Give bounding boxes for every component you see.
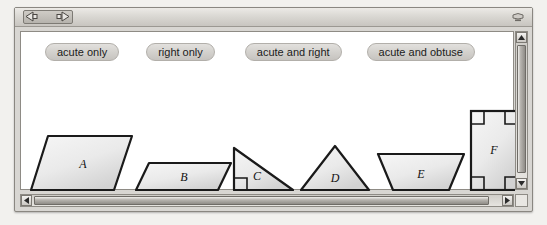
shape-B-label: B bbox=[180, 170, 188, 184]
navigation-arrows-group[interactable] bbox=[23, 10, 73, 24]
content-canvas: acute only right only acute and right ac… bbox=[20, 31, 514, 190]
shape-A-label: A bbox=[78, 157, 87, 171]
shape-F-right-angle-marker-tl bbox=[471, 111, 484, 124]
widget-icon[interactable] bbox=[510, 10, 526, 24]
button-acute-and-right[interactable]: acute and right bbox=[245, 43, 342, 61]
shape-C-right-angle-marker bbox=[234, 178, 247, 190]
button-acute-and-obtuse[interactable]: acute and obtuse bbox=[367, 43, 475, 61]
horizontal-scrollbar-thumb[interactable] bbox=[34, 196, 489, 205]
shape-B[interactable]: B bbox=[136, 163, 231, 190]
shape-F-right-angle-marker-bl bbox=[471, 177, 484, 190]
shape-A-outline[interactable] bbox=[31, 136, 132, 190]
horizontal-scrollbar[interactable] bbox=[20, 194, 514, 207]
shape-F[interactable]: F bbox=[471, 111, 515, 190]
shape-E-label: E bbox=[416, 167, 425, 181]
left-arrow-icon[interactable] bbox=[25, 8, 45, 26]
shape-E-outline[interactable] bbox=[378, 154, 464, 190]
shape-C[interactable]: C bbox=[234, 148, 293, 190]
scrollbar-corner bbox=[515, 194, 528, 207]
button-right-only[interactable]: right only bbox=[146, 43, 215, 61]
scroll-down-arrow-icon[interactable] bbox=[516, 178, 527, 189]
button-acute-only[interactable]: acute only bbox=[45, 43, 119, 61]
shape-D-label: D bbox=[330, 171, 340, 185]
vertical-scrollbar-thumb[interactable] bbox=[517, 45, 526, 173]
shape-A[interactable]: A bbox=[31, 136, 132, 190]
shape-F-label: F bbox=[489, 143, 498, 157]
shape-F-right-angle-marker-br bbox=[505, 177, 515, 190]
scroll-right-arrow-icon[interactable] bbox=[502, 195, 513, 206]
shape-F-outline[interactable] bbox=[471, 111, 515, 190]
scroll-up-arrow-icon[interactable] bbox=[516, 32, 527, 43]
shape-B-outline[interactable] bbox=[136, 163, 231, 190]
shape-E[interactable]: E bbox=[378, 154, 464, 190]
window-titlebar bbox=[15, 8, 532, 27]
scroll-left-arrow-icon[interactable] bbox=[21, 195, 32, 206]
shape-D[interactable]: D bbox=[301, 146, 369, 190]
application-window: acute only right only acute and right ac… bbox=[14, 7, 533, 212]
shape-C-outline[interactable] bbox=[234, 148, 293, 190]
category-button-row: acute only right only acute and right ac… bbox=[21, 43, 513, 61]
shape-C-label: C bbox=[253, 169, 262, 183]
right-arrow-icon[interactable] bbox=[51, 8, 71, 26]
vertical-scrollbar[interactable] bbox=[515, 31, 528, 190]
shape-D-outline[interactable] bbox=[301, 146, 369, 190]
shape-F-right-angle-marker-tr bbox=[505, 111, 515, 124]
